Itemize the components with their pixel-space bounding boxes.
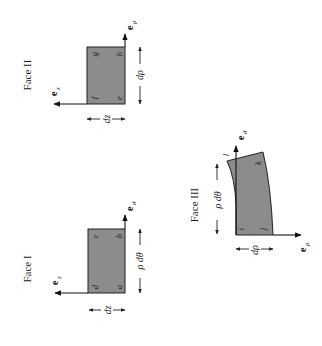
face-2-erho-label: e ρ (124, 20, 138, 30)
face-1-corner-a: a (114, 285, 124, 289)
face-3-corner-k: k (253, 161, 263, 165)
face-1-group: Face I e z e θ c b d a dz ρ dθ (21, 201, 145, 314)
svg-text:e: e (124, 25, 135, 30)
cylindrical-element-faces-diagram: Face II e z e ρ g h f e dz dρ Face I (0, 0, 322, 346)
face-2-group: Face II e z e ρ g h f e dz dρ (21, 20, 145, 123)
face-1-title: Face I (21, 255, 33, 283)
face-1-ez-label: e z (49, 276, 63, 285)
svg-text:θ: θ (241, 130, 249, 134)
face-2-drho-label: dρ (134, 70, 145, 80)
face-2-title: Face II (21, 59, 33, 90)
svg-text:θ: θ (130, 201, 138, 205)
face-1-dz-label: dz (102, 305, 113, 314)
face-3-title: Face III (188, 187, 200, 222)
face-3-group: Face III e θ e ρ l k i j ρ dθ dρ (188, 130, 311, 255)
face-3-erho-label: e ρ (297, 242, 311, 252)
svg-text:e: e (49, 280, 60, 285)
face-3-curved-element (227, 152, 273, 235)
face-3-corner-l: l (221, 153, 231, 156)
svg-text:z: z (55, 276, 63, 280)
svg-text:ρ: ρ (130, 20, 138, 25)
face-2-corner-e: e (114, 96, 124, 100)
face-3-rhodtheta-label: ρ dθ (212, 191, 223, 209)
face-1-rhodtheta-label: ρ dθ (134, 252, 145, 270)
face-2-corner-g: g (89, 52, 99, 56)
svg-text:e: e (235, 135, 246, 140)
face-1-etheta-label: e θ (124, 201, 138, 211)
svg-text:e: e (48, 91, 59, 96)
face-2-corner-h: h (114, 52, 124, 56)
face-3-etheta-label: e θ (235, 130, 249, 140)
face-1-corner-c: c (90, 234, 100, 238)
svg-text:ρ: ρ (303, 242, 311, 247)
svg-text:e: e (297, 247, 308, 252)
face-2-dz-label: dz (101, 114, 112, 123)
svg-text:z: z (54, 87, 62, 91)
face-3-drho-label: dρ (249, 245, 260, 255)
svg-text:e: e (124, 206, 135, 211)
face-2-ez-label: e z (48, 87, 62, 96)
face-1-corner-b: b (114, 234, 124, 238)
